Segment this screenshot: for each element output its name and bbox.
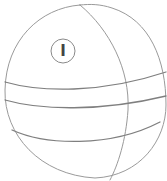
sphere-label: I: [56, 41, 70, 61]
band-line-1: [5, 72, 166, 89]
sphere-outline: [5, 4, 166, 178]
sphere-svg: [0, 0, 167, 181]
meridian-line: [80, 5, 128, 180]
band-line-2: [5, 96, 166, 108]
band-line-3: [12, 122, 160, 141]
